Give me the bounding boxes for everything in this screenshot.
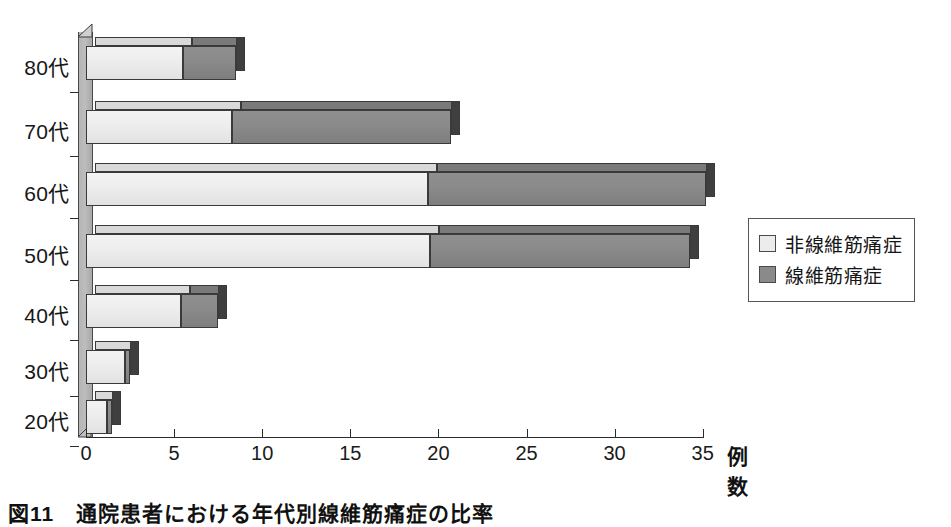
bar-segment-non-fibromyalgia[interactable] xyxy=(86,172,428,206)
bar-segment-non-fibromyalgia[interactable] xyxy=(86,350,125,384)
legend-label: 非線維筋痛症 xyxy=(785,230,902,257)
x-axis-tick-label: 10 xyxy=(232,442,292,465)
bar-segment-non-fibromyalgia[interactable] xyxy=(86,234,430,268)
bar-segment-fibromyalgia[interactable] xyxy=(181,294,218,328)
bar-end-face xyxy=(690,225,699,259)
bar-row[interactable] xyxy=(86,234,690,268)
x-axis-tick xyxy=(703,429,704,438)
bar-top-face-non-fibromyalgia xyxy=(95,341,134,350)
x-axis-tick xyxy=(86,429,87,438)
bar-end-face xyxy=(706,163,715,197)
y-axis-tick-label: 20代 xyxy=(0,405,70,435)
bar-top-face-non-fibromyalgia xyxy=(95,285,190,294)
x-axis-tick xyxy=(350,429,351,438)
bar-row[interactable] xyxy=(86,172,706,206)
bar-row[interactable] xyxy=(86,46,236,80)
y-axis-tick-label: 80代 xyxy=(0,51,70,81)
y-axis-tick xyxy=(70,92,79,93)
x-axis-tick xyxy=(615,429,616,438)
legend-item-non-fibromyalgia[interactable]: 非線維筋痛症 xyxy=(759,230,902,257)
y-axis-tick xyxy=(70,396,79,397)
bar-segment-non-fibromyalgia[interactable] xyxy=(86,46,183,80)
y-axis-tick xyxy=(70,156,79,157)
legend-swatch-dark-icon xyxy=(759,266,776,283)
x-axis-tick-label: 20 xyxy=(408,442,468,465)
y-axis-tick xyxy=(70,280,79,281)
bar-row[interactable] xyxy=(86,294,218,328)
legend-swatch-light-icon xyxy=(759,235,776,252)
bar-segment-non-fibromyalgia[interactable] xyxy=(86,294,181,328)
bar-row[interactable] xyxy=(86,400,112,434)
x-axis-title: 例数 xyxy=(727,440,760,500)
x-axis-tick-label: 30 xyxy=(585,442,645,465)
y-axis-wall-top-cap xyxy=(77,22,93,38)
bar-end-face xyxy=(112,391,121,425)
bar-top-face-non-fibromyalgia xyxy=(95,163,437,172)
bar-top-face-non-fibromyalgia xyxy=(95,37,192,46)
bar-row[interactable] xyxy=(86,350,130,384)
y-axis-tick xyxy=(70,218,79,219)
x-axis-tick xyxy=(438,429,439,438)
bar-end-face xyxy=(236,37,245,71)
bar-end-face xyxy=(218,285,227,319)
y-axis-tick-label: 30代 xyxy=(0,355,70,385)
bar-segment-non-fibromyalgia[interactable] xyxy=(86,110,232,144)
y-axis-tick-label: 70代 xyxy=(0,115,70,145)
x-axis-tick xyxy=(174,429,175,438)
bar-top-face-non-fibromyalgia xyxy=(95,101,241,110)
y-axis-tick-label: 60代 xyxy=(0,177,70,207)
bar-top-face-fibromyalgia xyxy=(437,163,715,172)
bar-row[interactable] xyxy=(86,110,451,144)
x-axis-tick-label: 5 xyxy=(144,442,204,465)
bar-top-face-fibromyalgia xyxy=(241,101,459,110)
x-axis-tick-label: 0 xyxy=(56,442,116,465)
bar-end-face xyxy=(451,101,460,135)
x-axis-tick-label: 25 xyxy=(497,442,557,465)
figure-caption: 図11 通院患者における年代別線維筋痛症の比率 xyxy=(8,497,494,527)
bar-top-face-fibromyalgia xyxy=(439,225,700,234)
legend-label: 線維筋痛症 xyxy=(785,261,883,288)
x-axis-tick xyxy=(527,429,528,438)
y-axis-tick xyxy=(70,340,79,341)
bar-segment-fibromyalgia[interactable] xyxy=(183,46,236,80)
bar-segment-non-fibromyalgia[interactable] xyxy=(86,400,107,434)
x-axis-line xyxy=(86,437,704,438)
bar-segment-fibromyalgia[interactable] xyxy=(430,234,691,268)
bar-end-face xyxy=(130,341,139,375)
x-axis-tick xyxy=(262,429,263,438)
y-axis-tick-label: 50代 xyxy=(0,239,70,269)
y-axis-tick-label: 40代 xyxy=(0,299,70,329)
x-axis-tick-label: 35 xyxy=(673,442,733,465)
bar-segment-fibromyalgia[interactable] xyxy=(232,110,450,144)
bar-top-face-non-fibromyalgia xyxy=(95,225,439,234)
chart-legend: 非線維筋痛症 線維筋痛症 xyxy=(748,218,915,302)
x-axis-tick-label: 15 xyxy=(320,442,380,465)
legend-item-fibromyalgia[interactable]: 線維筋痛症 xyxy=(759,261,902,288)
chart-plot-area: 80代70代60代50代40代30代20代 05101520253035 例数 xyxy=(0,0,760,470)
bar-segment-fibromyalgia[interactable] xyxy=(428,172,706,206)
